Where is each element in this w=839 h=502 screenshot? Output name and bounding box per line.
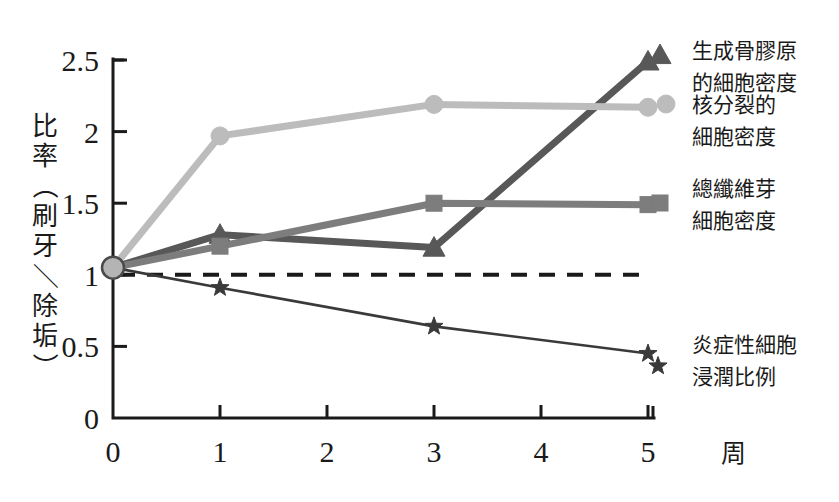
y-axis-title-char: 比 xyxy=(32,111,58,141)
legend-label: 炎症性細胞 xyxy=(692,333,797,357)
data-point-circle xyxy=(657,95,675,113)
series-3 xyxy=(113,195,656,267)
data-point-square xyxy=(652,195,668,211)
series-4 xyxy=(113,268,657,362)
data-point-star xyxy=(639,344,657,361)
y-tick-label: 0 xyxy=(84,402,99,435)
legend-item-4[interactable]: 炎症性細胞浸潤比例 xyxy=(692,333,797,389)
series-1 xyxy=(113,50,659,267)
legend-label: 浸潤比例 xyxy=(692,365,776,389)
x-axis-ticks: 012345 xyxy=(106,405,656,468)
y-axis-title-char: ／ xyxy=(30,263,60,289)
data-point-star xyxy=(211,278,229,295)
y-tick-label: 2.5 xyxy=(62,44,100,77)
y-tick-label: 1 xyxy=(84,259,99,292)
data-point-star xyxy=(425,317,443,334)
y-axis-title-char: 牙 xyxy=(32,231,58,261)
x-tick-label: 2 xyxy=(320,435,335,468)
line-chart: 00.511.522.5012345周比率（刷牙／除垢）生成骨膠原的細胞密度核分… xyxy=(0,0,839,502)
x-tick-label: 3 xyxy=(427,435,442,468)
legend-label: 總纖維芽 xyxy=(692,177,776,201)
y-axis-title-char: （ xyxy=(30,173,60,199)
y-axis-title: 比率（刷牙／除垢） xyxy=(30,111,60,379)
x-tick-label: 4 xyxy=(534,435,549,468)
legend-marker-square xyxy=(652,195,668,211)
legend-label: 的細胞密度 xyxy=(692,71,797,95)
x-tick-label: 0 xyxy=(106,435,121,468)
legend-label: 核分裂的 xyxy=(692,93,776,117)
data-point-square xyxy=(212,238,228,254)
legend-item-1[interactable]: 生成骨膠原的細胞密度 xyxy=(692,39,797,95)
y-axis-title-char: 率 xyxy=(32,141,58,171)
x-axis-title: 周 xyxy=(721,439,746,468)
y-tick-label: 2 xyxy=(84,116,99,149)
data-point-triangle xyxy=(649,44,671,64)
y-axis-title-char: ） xyxy=(30,353,60,379)
legend-item-2[interactable]: 核分裂的細胞密度 xyxy=(692,93,776,149)
x-tick-label: 5 xyxy=(641,435,656,468)
data-point-origin xyxy=(102,257,124,279)
y-axis-title-char: 除 xyxy=(32,291,58,321)
y-axis-title-char: 刷 xyxy=(32,201,58,231)
legend-label: 生成骨膠原 xyxy=(692,39,797,63)
legend-label: 細胞密度 xyxy=(692,209,776,233)
y-axis-ticks: 00.511.522.5 xyxy=(62,44,128,435)
series-line-3 xyxy=(113,203,648,267)
origin-data-point xyxy=(102,257,124,279)
legend-label: 細胞密度 xyxy=(692,125,776,149)
legend-marker-triangle xyxy=(649,44,671,64)
data-point-circle xyxy=(211,127,229,145)
legend-item-3[interactable]: 總纖維芽細胞密度 xyxy=(692,177,776,233)
chart-container: 00.511.522.5012345周比率（刷牙／除垢）生成骨膠原的細胞密度核分… xyxy=(0,0,839,502)
series-line-4 xyxy=(113,268,648,354)
data-point-circle xyxy=(639,98,657,116)
legend-marker-circle xyxy=(657,95,675,113)
x-tick-label: 1 xyxy=(213,435,228,468)
y-tick-label: 0.5 xyxy=(62,330,100,363)
y-axis-title-char: 垢 xyxy=(32,321,58,351)
data-point-square xyxy=(426,195,442,211)
y-tick-label: 1.5 xyxy=(62,187,100,220)
data-point-circle xyxy=(425,95,443,113)
